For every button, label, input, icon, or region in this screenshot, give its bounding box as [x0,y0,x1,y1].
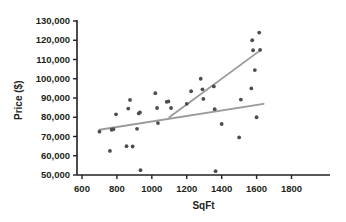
data-point [201,97,205,101]
data-point [250,38,254,42]
data-point [201,87,205,91]
data-point [139,168,143,172]
data-point [189,89,193,93]
data-point [156,121,160,125]
data-point [125,144,129,148]
y-axis-tick-label: 70,000 [41,132,70,142]
data-point [214,169,218,173]
data-points [98,31,262,173]
scatter-plot-figure: 50,00060,00070,00080,00090,000100,000110… [0,0,346,222]
data-point [199,77,203,81]
data-point [126,107,130,111]
data-point [135,127,139,131]
data-point [255,115,259,119]
data-point [185,102,189,106]
y-axis-title: Price ($) [14,81,24,120]
data-point [249,86,253,90]
data-point [114,112,118,116]
x-axis-title: SqFt [174,201,234,211]
data-point [212,85,216,89]
data-point [239,98,243,102]
y-axis-tick-label: 120,000 [36,35,70,45]
y-axis-tick-label: 110,000 [36,55,70,65]
data-point [237,136,241,140]
data-point [251,48,255,52]
y-axis-tick-label: 130,000 [36,16,70,26]
data-point [153,91,157,95]
data-point [155,106,159,110]
data-point [131,145,135,149]
data-point [169,106,173,110]
data-point [167,100,171,104]
axes [73,20,330,179]
data-point [128,98,132,102]
data-point [258,48,262,52]
data-point [213,107,217,111]
y-axis-tick-label: 90,000 [41,93,70,103]
data-point [98,130,102,134]
data-point [257,31,261,35]
data-point [253,68,257,72]
data-point [112,127,116,131]
x-axis-tick-label: 1800 [267,184,317,194]
data-point [108,149,112,153]
y-axis-tick-label: 60,000 [41,151,70,161]
y-axis-tick-label: 100,000 [36,74,70,84]
trend-lines [99,50,263,130]
data-point [138,111,142,115]
y-axis-tick-label: 50,000 [41,170,70,180]
y-axis-tick-label: 80,000 [41,112,70,122]
data-point [220,122,224,126]
